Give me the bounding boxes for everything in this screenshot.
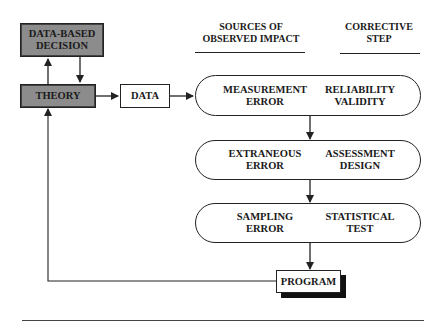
step-line1: RELIABILITY <box>310 84 410 96</box>
decision-label: DATA-BASED DECISION <box>21 28 103 52</box>
bottom-rule <box>22 320 424 321</box>
extraneous-error-row: EXTRANEOUSERROR ASSESSMENTDESIGN <box>195 140 421 180</box>
step-line2: TEST <box>310 223 410 235</box>
sampling-error-row: SAMPLINGERROR STATISTICALTEST <box>195 203 421 243</box>
theory-label: THEORY <box>35 90 80 102</box>
step-line2: DESIGN <box>310 160 410 172</box>
data-label: DATA <box>131 90 159 102</box>
step-line2: VALIDITY <box>310 96 410 108</box>
measurement-error-row: MEASUREMENTERROR RELIABILITYVALIDITY <box>195 75 421 116</box>
source-line2: ERROR <box>210 223 320 235</box>
step-line1: ASSESSMENT <box>310 148 410 160</box>
source-line1: SAMPLING <box>210 211 320 223</box>
source-line1: EXTRANEOUS <box>210 148 320 160</box>
source-line2: ERROR <box>210 160 320 172</box>
sources-header: SOURCES OF OBSERVED IMPACT <box>193 21 309 45</box>
source-line1: MEASUREMENT <box>210 84 320 96</box>
program-label: PROGRAM <box>281 276 336 288</box>
source-line2: ERROR <box>210 96 320 108</box>
program-node: PROGRAM <box>276 270 341 293</box>
sources-header-rule <box>195 52 305 53</box>
theory-node: THEORY <box>20 84 96 108</box>
data-node: DATA <box>120 84 170 108</box>
step-line1: STATISTICAL <box>310 211 410 223</box>
data-based-decision-node: DATA-BASED DECISION <box>20 23 104 57</box>
corrective-header: CORRECTIVE STEP <box>340 21 418 45</box>
corrective-header-rule <box>340 53 420 54</box>
